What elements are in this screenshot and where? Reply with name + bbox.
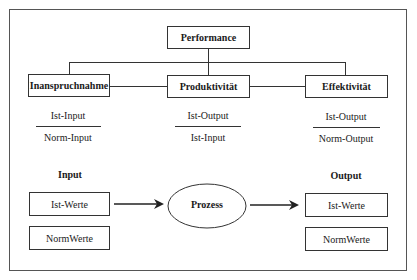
process-label: Prozess [191, 199, 223, 210]
arrow-input-to-process [114, 199, 164, 209]
arrow-process-to-output [250, 200, 299, 210]
process-flow-graphics [0, 0, 417, 280]
